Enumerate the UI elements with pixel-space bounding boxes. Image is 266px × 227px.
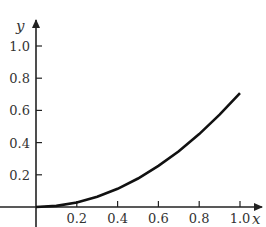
ticks: 0.20.40.60.81.00.20.40.60.81.0 [9, 39, 250, 226]
x-tick-label: 1.0 [230, 211, 251, 226]
y-axis-label: y [15, 17, 25, 35]
y-tick-label: 0.6 [9, 103, 30, 118]
y-tick-label: 0.8 [9, 71, 30, 86]
x-tick-label: 0.6 [148, 211, 169, 226]
x-tick-label: 0.2 [66, 211, 87, 226]
plot-area: 0.20.40.60.81.00.20.40.60.81.0 x y [0, 0, 266, 227]
axes [0, 20, 262, 227]
y-tick-label: 0.4 [9, 136, 30, 151]
y-tick-label: 1.0 [9, 39, 30, 54]
x-tick-label: 0.8 [189, 211, 210, 226]
chart: 0.20.40.60.81.00.20.40.60.81.0 x y [0, 0, 266, 227]
data-curve [36, 93, 240, 207]
y-tick-label: 0.2 [9, 168, 30, 183]
x-axis-label: x [252, 210, 261, 227]
x-tick-label: 0.4 [107, 211, 128, 226]
